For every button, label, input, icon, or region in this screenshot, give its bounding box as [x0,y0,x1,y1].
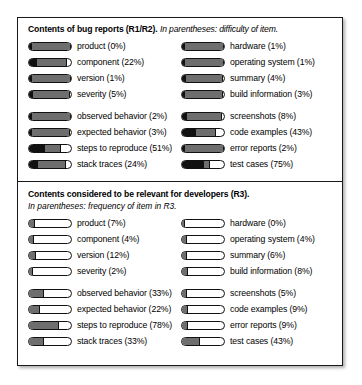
difficulty-bar-observed-behavior [28,112,72,121]
item-label-summary: summary (4%) [230,73,285,83]
item-label-operating-system: operating system (4%) [230,234,315,244]
difficulty-bar-hardware [181,42,225,51]
item-cell-summary-r3: summary (6%) [181,250,334,260]
item-cell-version-r3: version (12%) [28,250,181,260]
item-label-hardware: hardware (1%) [230,41,286,51]
frequency-bar-code-examples [181,305,225,314]
item-cell-hardware-r1r2: hardware (1%) [181,41,334,51]
item-label-product: product (0%) [77,41,126,51]
difficulty-bar-expected-behavior [28,128,72,137]
item-row: steps to reproduce (78%) error reports (… [28,317,333,333]
difficulty-bar-summary [181,74,225,83]
item-group-fields-r1r2: product (0%) hardware (1%) component (22… [28,38,333,102]
item-cell-steps-to-reproduce-r3: steps to reproduce (78%) [28,320,181,330]
item-cell-product-r1r2: product (0%) [28,41,181,51]
item-cell-build-information-r1r2: build information (3%) [181,89,334,99]
item-label-severity: severity (5%) [77,89,126,99]
item-cell-build-information-r3: build information (8%) [181,266,334,276]
frequency-bar-component [28,235,72,244]
item-row: severity (2%) build information (8%) [28,263,333,279]
item-label-product: product (7%) [77,218,126,228]
difficulty-bar-error-reports [181,144,225,153]
item-label-steps-to-reproduce: steps to reproduce (78%) [77,320,172,330]
item-cell-test-cases-r1r2: test cases (75%) [181,159,334,169]
item-cell-product-r3: product (7%) [28,218,181,228]
item-cell-summary-r1r2: summary (4%) [181,73,334,83]
item-cell-severity-r3: severity (2%) [28,266,181,276]
item-row: component (4%) operating system (4%) [28,231,333,247]
frequency-bar-operating-system [181,235,225,244]
item-cell-error-reports-r3: error reports (9%) [181,320,334,330]
item-label-stack-traces: stack traces (33%) [77,336,147,346]
figure-container: Contents of bug reports (R1/R2). In pare… [17,17,343,366]
item-row: component (22%) operating system (1%) [28,54,333,70]
item-label-code-examples: code examples (43%) [230,127,312,137]
item-label-version: version (12%) [77,250,129,260]
item-label-component: component (4%) [77,234,139,244]
frequency-bar-test-cases [181,337,225,346]
item-label-component: component (22%) [77,57,144,67]
frequency-bar-steps-to-reproduce [28,321,72,330]
item-label-screenshots: screenshots (5%) [230,288,296,298]
item-label-error-reports: error reports (9%) [230,320,297,330]
item-cell-expected-behavior-r3: expected behavior (22%) [28,304,181,314]
item-label-screenshots: screenshots (8%) [230,111,296,121]
frequency-bar-error-reports [181,321,225,330]
item-row: stack traces (33%) test cases (43%) [28,333,333,349]
frequency-bar-screenshots [181,289,225,298]
frequency-bar-severity [28,267,72,276]
frequency-bar-summary [181,251,225,260]
panel-caption-r1r2: Contents of bug reports (R1/R2). In pare… [28,24,333,35]
frequency-bar-build-information [181,267,225,276]
item-label-version: version (1%) [77,73,125,83]
item-row: severity (5%) build information (3%) [28,86,333,102]
item-label-test-cases: test cases (75%) [230,159,293,169]
difficulty-bar-component [28,58,72,67]
item-cell-observed-behavior-r1r2: observed behavior (2%) [28,111,181,121]
item-group-descriptions-r1r2: observed behavior (2%) screenshots (8%) … [28,108,333,172]
item-label-build-information: build information (8%) [230,266,312,276]
item-cell-code-examples-r3: code examples (9%) [181,304,334,314]
item-label-expected-behavior: expected behavior (3%) [77,127,167,137]
difficulty-bar-test-cases [181,160,225,169]
item-group-fields-r3: product (7%) hardware (0%) component (4%… [28,215,333,279]
item-cell-version-r1r2: version (1%) [28,73,181,83]
panel-title-r3: Contents considered to be relevant for d… [28,189,249,199]
item-group-descriptions-r3: observed behavior (33%) screenshots (5%)… [28,285,333,349]
frequency-bar-stack-traces [28,337,72,346]
item-cell-screenshots-r1r2: screenshots (8%) [181,111,334,121]
panel-caption-r3: Contents considered to be relevant for d… [28,189,333,200]
difficulty-bar-product [28,42,72,51]
item-row: observed behavior (33%) screenshots (5%) [28,285,333,301]
item-row: product (7%) hardware (0%) [28,215,333,231]
frequency-bar-observed-behavior [28,289,72,298]
item-cell-code-examples-r1r2: code examples (43%) [181,127,334,137]
item-row: version (12%) summary (6%) [28,247,333,263]
item-label-code-examples: code examples (9%) [230,304,307,314]
item-cell-operating-system-r3: operating system (4%) [181,234,334,244]
frequency-bar-expected-behavior [28,305,72,314]
frequency-bar-product [28,219,72,228]
panel-title-r1r2: Contents of bug reports (R1/R2). [28,24,158,34]
item-cell-stack-traces-r3: stack traces (33%) [28,336,181,346]
item-row: expected behavior (3%) code examples (43… [28,124,333,140]
item-label-observed-behavior: observed behavior (2%) [77,111,167,121]
item-label-severity: severity (2%) [77,266,126,276]
item-cell-hardware-r3: hardware (0%) [181,218,334,228]
item-cell-stack-traces-r1r2: stack traces (24%) [28,159,181,169]
panel-developer-relevance: Contents considered to be relevant for d… [18,182,342,353]
item-row: version (1%) summary (4%) [28,70,333,86]
item-cell-expected-behavior-r1r2: expected behavior (3%) [28,127,181,137]
item-cell-operating-system-r1r2: operating system (1%) [181,57,334,67]
item-cell-screenshots-r3: screenshots (5%) [181,288,334,298]
item-cell-steps-to-reproduce-r1r2: steps to reproduce (51%) [28,143,181,153]
item-label-expected-behavior: expected behavior (22%) [77,304,171,314]
item-row: observed behavior (2%) screenshots (8%) [28,108,333,124]
panel-subtitle-r3: In parentheses: frequency of item in R3. [28,201,333,212]
item-cell-component-r3: component (4%) [28,234,181,244]
item-row: expected behavior (22%) code examples (9… [28,301,333,317]
frequency-bar-version [28,251,72,260]
item-label-observed-behavior: observed behavior (33%) [77,288,172,298]
item-label-test-cases: test cases (43%) [230,336,293,346]
item-cell-error-reports-r1r2: error reports (2%) [181,143,334,153]
